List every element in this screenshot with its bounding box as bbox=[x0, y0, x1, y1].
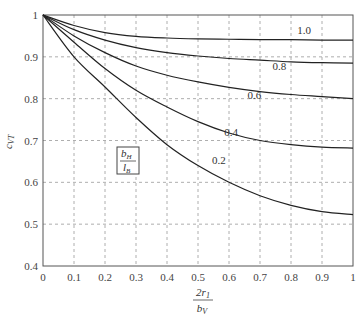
legend-den-sub: B bbox=[126, 167, 131, 175]
x-tick-label: 1 bbox=[350, 271, 356, 283]
x-tick-label: 0 bbox=[40, 271, 46, 283]
y-tick-label: 0.7 bbox=[24, 135, 38, 147]
y-axis-label: cVT bbox=[2, 134, 16, 149]
grid-lines bbox=[43, 15, 353, 266]
x-tick-label: 0.2 bbox=[98, 271, 112, 283]
y-tick-label: 0.4 bbox=[24, 260, 38, 272]
y-axis-ticks: 0.40.50.60.70.80.91 bbox=[24, 9, 38, 272]
curve-label: 0.2 bbox=[212, 154, 226, 166]
x-tick-label: 0.8 bbox=[284, 271, 298, 283]
x-axis-label: 2r1 bV bbox=[193, 286, 213, 316]
svg-text:2r1: 2r1 bbox=[196, 286, 210, 300]
x-tick-label: 0.9 bbox=[315, 271, 329, 283]
legend-box: bH lB bbox=[117, 147, 139, 175]
y-tick-label: 0.5 bbox=[24, 218, 38, 230]
x-tick-label: 0.7 bbox=[253, 271, 267, 283]
curve-label: 0.6 bbox=[248, 89, 262, 101]
x-axis-ticks: 00.10.20.30.40.50.60.70.80.91 bbox=[40, 271, 356, 283]
legend-num-sub: H bbox=[126, 153, 133, 161]
x-tick-label: 0.1 bbox=[67, 271, 81, 283]
curve-label: 0.8 bbox=[272, 60, 286, 72]
y-tick-label: 0.9 bbox=[24, 51, 38, 63]
svg-text:bV: bV bbox=[197, 302, 209, 316]
x-tick-label: 0.6 bbox=[222, 271, 236, 283]
svg-text:cVT: cVT bbox=[2, 134, 16, 149]
chart: 1.00.80.60.40.2 00.10.20.30.40.50.60.70.… bbox=[0, 0, 364, 320]
curve-label: 0.4 bbox=[224, 126, 238, 138]
x-tick-label: 0.5 bbox=[191, 271, 205, 283]
x-tick-label: 0.3 bbox=[129, 271, 143, 283]
y-tick-label: 0.6 bbox=[24, 176, 38, 188]
y-tick-label: 1 bbox=[33, 9, 39, 21]
y-tick-label: 0.8 bbox=[24, 93, 38, 105]
x-tick-label: 0.4 bbox=[160, 271, 174, 283]
curve-label: 1.0 bbox=[297, 24, 311, 36]
